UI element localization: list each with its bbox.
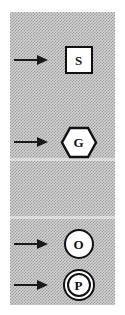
symbol-slot-state: S (48, 38, 115, 82)
legend-row-gateway[interactable]: G (10, 120, 115, 164)
symbol-slot-process: P (48, 263, 115, 307)
arrow-head (37, 280, 48, 290)
symbol-slot-object: O (48, 222, 115, 266)
arrow-shaft (14, 141, 39, 143)
legend-row-state[interactable]: S (10, 38, 115, 82)
symbol-letter-state: S (75, 54, 82, 67)
hexagon-shape-icon[interactable]: G (60, 126, 98, 159)
symbol-letter-object: O (73, 238, 83, 251)
arrow-head (37, 239, 48, 249)
square-shape-icon[interactable]: S (65, 46, 93, 74)
double-circle-shape-icon[interactable]: P (63, 269, 95, 301)
legend-row-process[interactable]: P (10, 263, 115, 307)
circle-shape-icon[interactable]: O (64, 229, 94, 259)
legend-row-object[interactable]: O (10, 222, 115, 266)
arrow-head (37, 55, 48, 65)
arrow-head (37, 137, 48, 147)
symbol-slot-gateway: G (48, 120, 115, 164)
right-arrow-icon (14, 280, 48, 291)
symbol-letter-process: P (75, 279, 83, 292)
right-arrow-icon (14, 55, 48, 66)
symbol-letter-gateway: G (73, 136, 83, 149)
arrow-shaft (14, 59, 39, 61)
right-arrow-icon (14, 239, 48, 250)
panel-seam-lower (10, 216, 115, 219)
arrow-shaft (14, 243, 39, 245)
right-arrow-icon (14, 137, 48, 148)
arrow-shaft (14, 284, 39, 286)
symbol-legend-panel: S G O (0, 0, 125, 315)
